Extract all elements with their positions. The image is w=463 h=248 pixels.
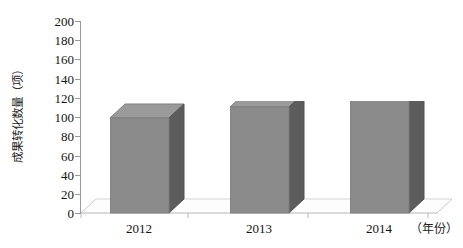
y-tick-label: 100: [30, 111, 74, 124]
y-tick-label: 80: [30, 130, 74, 143]
bar-chart: 成果转化数量（项） 200 180 160 140 120 100 80 60 …: [0, 0, 463, 248]
x-axis-title: （年份）: [404, 222, 463, 236]
y-tick-mark: [75, 117, 81, 118]
y-tick-label: 200: [30, 15, 74, 28]
y-tick-mark: [75, 194, 81, 195]
y-tick-label: 160: [30, 53, 74, 66]
y-tick-mark: [75, 156, 81, 157]
y-tick-mark: [75, 98, 81, 99]
y-tick-label: 0: [30, 207, 74, 220]
y-tick-label: 40: [30, 169, 74, 182]
y-tick-mark: [75, 213, 81, 214]
x-tick-label-2013: 2013: [224, 222, 294, 236]
y-tick-mark: [75, 59, 81, 60]
y-tick-label: 180: [30, 34, 74, 47]
y-axis-title: 成果转化数量（项）: [9, 43, 27, 183]
y-tick-label: 60: [30, 150, 74, 163]
y-tick-mark: [75, 136, 81, 137]
y-tick-mark: [75, 21, 81, 22]
y-tick-mark: [75, 79, 81, 80]
y-axis-tick-labels: 200 180 160 140 120 100 80 60 40 20 0: [30, 0, 78, 248]
bar-2014: [350, 0, 440, 248]
bar-2013: [230, 0, 320, 248]
x-tick-label-2012: 2012: [104, 222, 174, 236]
bar-2012: [110, 0, 200, 248]
y-tick-label: 140: [30, 73, 74, 86]
y-tick-label: 120: [30, 92, 74, 105]
y-tick-label: 20: [30, 188, 74, 201]
y-tick-mark: [75, 40, 81, 41]
y-tick-mark: [75, 175, 81, 176]
